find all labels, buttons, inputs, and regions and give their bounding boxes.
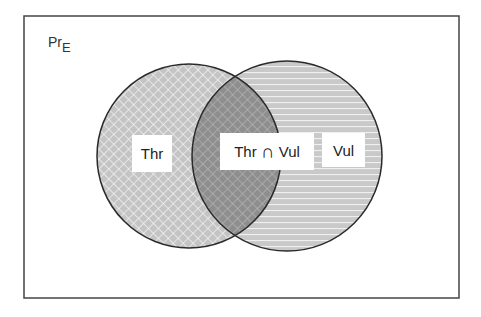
set-vul-label: Vul: [322, 133, 365, 167]
intersection-label: Thr ∩ Vul: [220, 133, 314, 170]
universe-label: PrE: [48, 34, 71, 55]
set-thr-label: Thr: [132, 135, 172, 172]
